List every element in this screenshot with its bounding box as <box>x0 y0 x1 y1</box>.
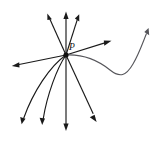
ray-left-line <box>18 55 66 65</box>
arrowhead-up-icon <box>63 12 68 20</box>
arrowhead-down-right-icon <box>90 115 97 122</box>
s-curve-path <box>66 34 146 75</box>
arrowhead-down-left-icon <box>20 117 25 124</box>
ray-up-left <box>47 14 66 56</box>
arrowhead-up-left-icon <box>47 14 52 21</box>
arrowhead-right-icon <box>104 41 112 46</box>
arrowhead-down-curved-icon <box>40 118 45 125</box>
arrowhead-down-icon <box>63 124 68 132</box>
vertex-point-p <box>63 52 68 57</box>
ray-down-left-curved <box>20 55 66 124</box>
ray-up-left-line <box>50 19 66 55</box>
arrowhead-left-icon <box>12 62 20 67</box>
ray-down-vertical <box>63 55 68 131</box>
geometry-figure: P <box>0 0 159 142</box>
figure-canvas: P <box>0 0 159 142</box>
ray-down-curved <box>40 55 66 125</box>
ray-down-right-line <box>66 55 93 114</box>
vertex-label-p: P <box>68 42 75 52</box>
ray-down-right <box>66 55 97 122</box>
